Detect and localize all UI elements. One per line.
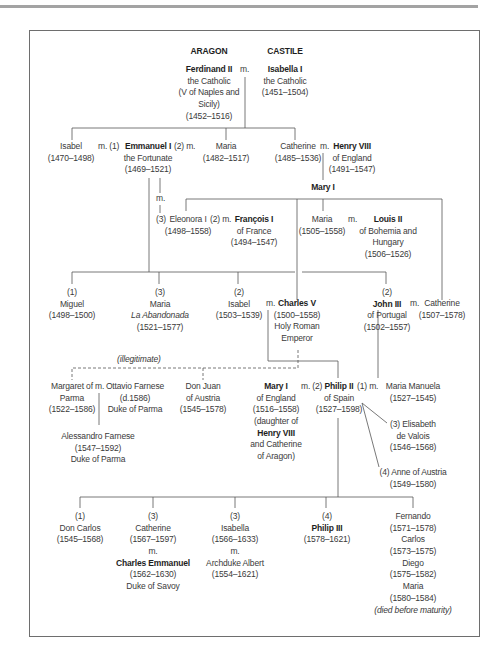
person-catherine-1507: Catherine (1507–1578) bbox=[387, 298, 497, 321]
person-mary-i-top: Mary I bbox=[268, 182, 378, 194]
person-henry-viii: Henry VIII of England (1491–1547) bbox=[297, 141, 407, 176]
person-louis-ii: Louis II of Bohemia and Hungary (1506–15… bbox=[333, 214, 443, 261]
person-other-children: Fernando (1571–1578) Carlos (1573–1575) … bbox=[358, 511, 468, 616]
house-castile: CASTILE bbox=[230, 46, 340, 58]
person-alessandro-farnese: Alessandro Farnese (1547–1592) Duke of P… bbox=[43, 431, 153, 466]
person-elisabeth-de-valois: (3) Elisabeth de Valois (1546–1568) bbox=[358, 419, 468, 454]
person-maria-manuela: Maria Manuela (1527–1545) bbox=[358, 381, 468, 404]
marriage-label: m. bbox=[156, 193, 165, 205]
person-isabella-i: Isabella I the Catholic (1451–1504) bbox=[230, 64, 340, 99]
person-anne-of-austria: (4) Anne of Austria (1549–1580) bbox=[358, 467, 468, 490]
illegitimate-note: (illegitimate) bbox=[117, 354, 161, 366]
